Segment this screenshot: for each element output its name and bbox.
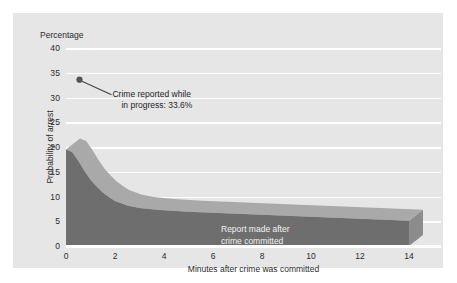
series-label-line-1: Report made after <box>221 224 290 234</box>
y-tick-label: 20 <box>50 142 60 152</box>
y-tick-label: 0 <box>55 241 60 251</box>
y-tick-label: 5 <box>55 216 60 226</box>
y-tick-label: 40 <box>50 43 60 53</box>
x-tick-label: 6 <box>211 251 216 261</box>
unit-label: Percentage <box>40 30 83 40</box>
annotation-leader-line <box>82 81 112 95</box>
x-tick-label: 14 <box>404 251 413 261</box>
chart-panel: Percentage Probability of arrest 0510152… <box>13 13 443 268</box>
y-tick-label: 10 <box>50 192 60 202</box>
series-inline-label: Report made after crime committed <box>221 224 290 247</box>
x-tick-label: 10 <box>306 251 315 261</box>
x-tick-label: 8 <box>260 251 265 261</box>
series-label-line-2: crime committed <box>221 236 283 246</box>
crime-in-progress-marker <box>76 77 82 83</box>
x-tick-label: 4 <box>162 251 167 261</box>
y-tick-label: 30 <box>50 93 60 103</box>
x-tick-label: 0 <box>64 251 69 261</box>
x-tick-label: 12 <box>355 251 364 261</box>
x-axis-baseline <box>66 245 441 247</box>
x-axis-title: Minutes after crime was committed <box>188 264 319 274</box>
chart-figure: Percentage Probability of arrest 0510152… <box>0 0 457 283</box>
annotation-crime-in-progress: Crime reported while in progress: 33.6% <box>112 89 192 112</box>
annotation-line-2: in progress: 33.6% <box>121 100 192 112</box>
y-tick-label: 35 <box>50 68 60 78</box>
plot-area: Probability of arrest 0510152025303540 C… <box>66 48 441 246</box>
y-tick-label: 25 <box>50 117 60 127</box>
y-tick-label: 15 <box>50 167 60 177</box>
annotation-line-1: Crime reported while <box>112 89 190 99</box>
area-series-3d <box>66 48 441 246</box>
x-tick-label: 2 <box>113 251 118 261</box>
